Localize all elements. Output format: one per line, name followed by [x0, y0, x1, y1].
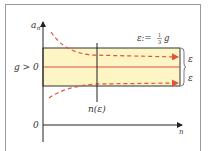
epsilon-definition-denominator: 3: [158, 39, 161, 45]
upper-epsilon-brace: [181, 48, 186, 67]
y-axis-label: an: [31, 20, 40, 31]
convergence-diagram: an g > 0 0 ε:= 1 3 g n(ε) ε ε n: [0, 0, 208, 151]
origin-label: 0: [33, 120, 39, 130]
x-axis-label: n: [179, 128, 184, 136]
epsilon-definition-prefix: ε:=: [137, 33, 152, 43]
upper-epsilon-label: ε: [188, 54, 193, 64]
limit-label: g > 0: [14, 62, 39, 72]
lower-epsilon-brace: [181, 67, 186, 86]
lower-epsilon-label: ε: [188, 73, 193, 83]
epsilon-definition-suffix: g: [164, 33, 170, 43]
epsilon-definition-numerator: 1: [158, 32, 161, 38]
threshold-label: n(ε): [88, 104, 106, 114]
